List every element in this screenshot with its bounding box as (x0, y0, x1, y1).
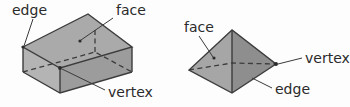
label-pyramid-edge: edge (275, 81, 310, 97)
label-cuboid-edge: edge (12, 2, 47, 18)
label-cuboid-vertex: vertex (108, 84, 153, 100)
label-pyramid-vertex: vertex (305, 50, 350, 66)
pyramid-shape (189, 30, 278, 93)
pyramid-left-face (189, 30, 232, 93)
diagram-canvas: edge face vertex face vertex edge (0, 0, 350, 107)
pyramid-vertex-marker (274, 62, 278, 66)
pyramid-vertex-leader (278, 58, 302, 64)
pyramid-edge-leader (252, 78, 272, 88)
cuboid-shape (21, 14, 132, 93)
cuboid-vertex-marker (58, 66, 62, 70)
geometry-diagram: edge face vertex face vertex edge (0, 0, 350, 107)
pyramid-right-face (232, 30, 276, 93)
label-cuboid-face: face (116, 2, 146, 18)
label-pyramid-face: face (184, 19, 214, 35)
